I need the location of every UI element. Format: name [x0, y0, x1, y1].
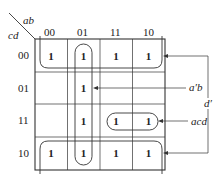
row-header-00: 00	[18, 50, 29, 61]
cell-00-11: 1	[100, 51, 132, 62]
cell-00-10: 1	[133, 51, 165, 62]
row-header-01: 01	[18, 83, 29, 94]
row-header-10: 10	[18, 148, 29, 159]
cell-00-00: 1	[35, 51, 67, 62]
term-label-d-prime: d′	[203, 98, 213, 109]
cell-10-10: 1	[133, 148, 165, 159]
cell-01-01: 1	[68, 83, 100, 94]
term-label-acd: acd	[191, 116, 207, 127]
cell-11-01: 1	[68, 116, 100, 127]
term-label-a-prime-b: a′b	[189, 82, 202, 93]
cell-10-00: 1	[35, 148, 67, 159]
column-variable-label: ab	[23, 15, 34, 26]
column-header-11: 11	[110, 27, 121, 38]
column-header-01: 01	[77, 27, 88, 38]
cell-11-10: 1	[133, 116, 165, 127]
row-header-11: 11	[18, 115, 29, 126]
row-variable-label: cd	[8, 30, 18, 41]
column-header-00: 00	[44, 27, 55, 38]
karnaugh-map-diagram: ab cd 00 01 11 10 00 01 11 10 1 1 1 1 1 …	[0, 0, 220, 181]
cell-00-01: 1	[68, 51, 100, 62]
cell-11-11: 1	[100, 116, 132, 127]
cell-10-11: 1	[100, 148, 132, 159]
column-header-10: 10	[143, 27, 154, 38]
cell-10-01: 1	[68, 148, 100, 159]
